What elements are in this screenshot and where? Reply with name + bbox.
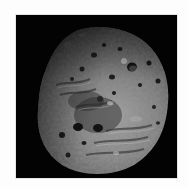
- asteroid-image: [16, 15, 177, 178]
- space-background: [16, 15, 177, 178]
- image-frame: [0, 0, 188, 188]
